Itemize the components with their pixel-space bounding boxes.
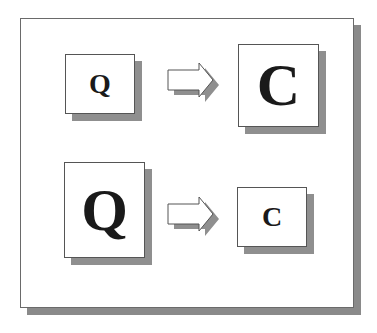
letter-c: C: [257, 51, 300, 120]
target-box-large-c: C: [238, 44, 319, 127]
source-box-small-q: Q: [65, 54, 135, 114]
letter-q: Q: [81, 176, 128, 245]
target-box-small-c: C: [237, 187, 307, 247]
letter-c: C: [262, 201, 282, 233]
source-box-large-q: Q: [64, 162, 145, 258]
right-arrow-icon: [167, 197, 223, 237]
letter-q: Q: [89, 68, 111, 100]
right-arrow-icon: [167, 63, 223, 103]
